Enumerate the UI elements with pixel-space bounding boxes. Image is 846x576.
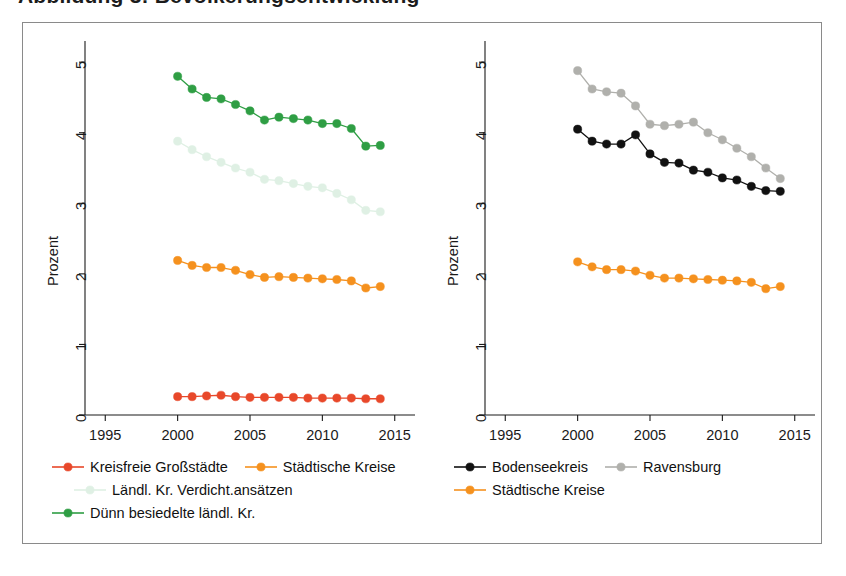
y-tick-label: 4	[473, 132, 489, 140]
legend-key-icon	[244, 460, 278, 474]
y-tick-label: 0	[473, 414, 489, 422]
legend-right-row-1: BodenseekreisRavensburg	[453, 455, 737, 478]
legend-item-label: Städtische Kreise	[492, 482, 605, 498]
legend-item-left-3[interactable]: Dünn besiedelte ländl. Kr.	[51, 505, 271, 521]
x-tick-label: 2015	[779, 427, 811, 443]
figure-frame: Prozent 01234519952000200520102015 Proze…	[22, 22, 822, 544]
y-tick-label: 5	[73, 61, 89, 69]
legend-item-right-0[interactable]: Bodenseekreis	[453, 459, 604, 475]
x-tick-label: 2000	[561, 427, 593, 443]
legend-item-label: Städtische Kreise	[283, 459, 396, 475]
legend-key-icon	[604, 460, 638, 474]
legend-item-label: Ländl. Kr. Verdicht.ansätzen	[112, 482, 293, 498]
x-tick-label: 2010	[306, 427, 338, 443]
cropped-title-remnant: Abbildung 3: Bevölkerungsentwicklung	[18, 0, 420, 8]
plot-area-right	[423, 23, 823, 453]
y-axis-title-left: Prozent	[45, 236, 61, 286]
panel-left: Prozent 01234519952000200520102015	[23, 23, 423, 453]
legend-item-label: Bodenseekreis	[492, 459, 588, 475]
x-tick-label: 2015	[379, 427, 411, 443]
y-tick-label: 2	[73, 273, 89, 281]
legend-item-label: Ravensburg	[643, 459, 721, 475]
y-tick-label: 3	[473, 202, 489, 210]
legend-container: Kreisfreie GroßstädteStädtische Kreise L…	[23, 453, 823, 543]
legend-key-icon	[453, 460, 487, 474]
figure-root: Abbildung 3: Bevölkerungsentwicklung Pro…	[0, 0, 846, 576]
legend-left-row-3: Dünn besiedelte ländl. Kr.	[51, 501, 271, 524]
legend-key-icon	[51, 506, 85, 520]
y-tick-label: 1	[473, 343, 489, 351]
y-tick-label: 1	[73, 343, 89, 351]
y-tick-label: 4	[73, 132, 89, 140]
legend-right-row-2: Städtische Kreise	[453, 478, 621, 501]
legend-left-row-1: Kreisfreie GroßstädteStädtische Kreise	[51, 455, 412, 478]
y-tick-label: 2	[473, 273, 489, 281]
x-tick-label: 2000	[161, 427, 193, 443]
legend-item-left-0[interactable]: Kreisfreie Großstädte	[51, 459, 244, 475]
y-axis-title-right: Prozent	[445, 236, 461, 286]
panel-right: Prozent 01234519952000200520102015	[423, 23, 823, 453]
legend-item-right-2[interactable]: Städtische Kreise	[453, 482, 621, 498]
x-tick-label: 1995	[89, 427, 121, 443]
y-tick-label: 3	[73, 202, 89, 210]
legend-key-icon	[51, 460, 85, 474]
legend-key-icon	[453, 483, 487, 497]
y-tick-label: 5	[473, 61, 489, 69]
panels-container: Prozent 01234519952000200520102015 Proze…	[23, 23, 823, 453]
legend-item-label: Dünn besiedelte ländl. Kr.	[90, 505, 255, 521]
x-tick-label: 2005	[234, 427, 266, 443]
x-tick-label: 2005	[634, 427, 666, 443]
plot-area-left	[23, 23, 423, 453]
legend-left-row-2: Ländl. Kr. Verdicht.ansätzen	[73, 478, 309, 501]
legend-item-right-1[interactable]: Ravensburg	[604, 459, 737, 475]
x-tick-label: 1995	[489, 427, 521, 443]
x-tick-label: 2010	[706, 427, 738, 443]
y-tick-label: 0	[73, 414, 89, 422]
legend-key-icon	[73, 483, 107, 497]
legend-item-label: Kreisfreie Großstädte	[90, 459, 228, 475]
legend-item-left-1[interactable]: Städtische Kreise	[244, 459, 412, 475]
legend-item-left-2[interactable]: Ländl. Kr. Verdicht.ansätzen	[73, 482, 309, 498]
